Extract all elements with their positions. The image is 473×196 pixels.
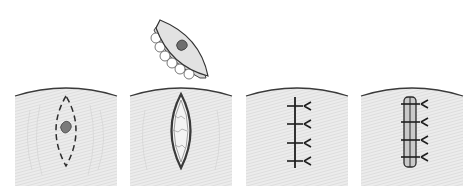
panel-1-marking <box>15 88 117 186</box>
excised-specimen <box>151 20 208 79</box>
panel-2-excision <box>130 20 232 186</box>
surgical-excision-diagram <box>0 0 473 196</box>
panel-3-suturing <box>246 88 348 186</box>
panel-4-tie-over-dressing <box>361 88 463 186</box>
